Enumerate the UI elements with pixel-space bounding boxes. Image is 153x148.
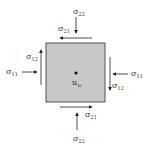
left-shear-label: σ12	[26, 52, 38, 62]
stress-element-diagram: uw σ22 σ21 σ11 σ12 σ11 σ12 σ21 σ22	[0, 0, 153, 148]
bottom-normal-label: σ22	[73, 134, 85, 144]
center-point	[74, 71, 77, 74]
right-shear-label: σ12	[112, 81, 124, 91]
top-shear-label: σ21	[58, 24, 70, 34]
left-normal-label: σ11	[6, 67, 18, 77]
bottom-shear-label: σ21	[85, 110, 97, 120]
right-normal-label: σ11	[131, 69, 143, 79]
top-normal-label: σ22	[73, 7, 85, 17]
